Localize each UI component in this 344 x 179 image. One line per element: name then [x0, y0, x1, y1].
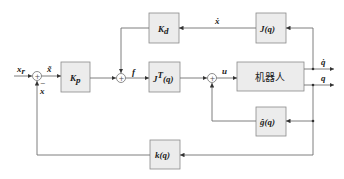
j-label: J(q) [259, 24, 275, 34]
xr-label: xr [16, 64, 26, 76]
qdot-label: q̇ [321, 57, 326, 67]
block-diagram: + + + Kp Kd JT(q) J(q) 机器人 ĝ(q) k(q) xr … [0, 0, 344, 179]
plus-sign: + [119, 75, 125, 83]
f-label: f [132, 67, 136, 77]
robot-label: 机器人 [255, 71, 285, 83]
x-error-label: x̃ [46, 64, 52, 74]
minus-sign: − [40, 78, 45, 88]
plus-sign: + [210, 75, 216, 83]
u-label: u [222, 66, 227, 76]
q-label: q [321, 73, 326, 83]
k-label: k(q) [155, 150, 170, 160]
xdot-label: ẋ [214, 16, 220, 26]
g-label: ĝ(q) [259, 117, 275, 127]
